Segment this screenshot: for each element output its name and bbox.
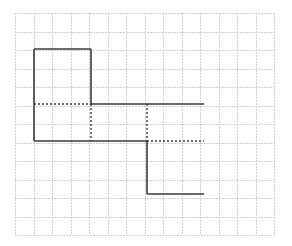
grid-diagram [0, 0, 292, 246]
dotted-lines [34, 104, 204, 141]
background-grid [15, 13, 275, 236]
solid-outline [34, 49, 204, 194]
